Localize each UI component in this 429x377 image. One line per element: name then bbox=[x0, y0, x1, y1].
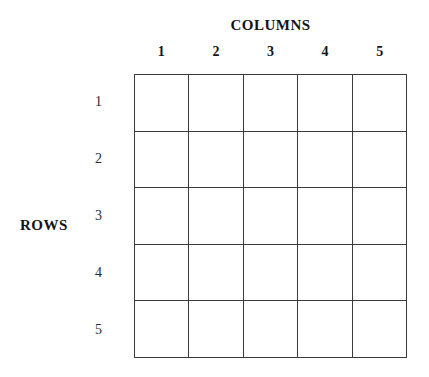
grid-cell[interactable] bbox=[135, 245, 189, 302]
grid-cell[interactable] bbox=[244, 188, 298, 245]
grid-cell[interactable] bbox=[353, 301, 407, 358]
grid-cell[interactable] bbox=[135, 301, 189, 358]
grid-cell[interactable] bbox=[189, 188, 243, 245]
grid-cell[interactable] bbox=[298, 132, 352, 189]
column-header-2: 2 bbox=[189, 42, 244, 62]
grid-table bbox=[134, 74, 407, 358]
grid-cell[interactable] bbox=[189, 132, 243, 189]
row-header-1: 1 bbox=[60, 74, 108, 131]
grid-cell[interactable] bbox=[135, 75, 189, 132]
column-header-strip: 1 2 3 4 5 bbox=[134, 42, 407, 62]
grid-cell[interactable] bbox=[353, 245, 407, 302]
columns-axis-title: COLUMNS bbox=[134, 17, 407, 34]
row-header-4: 4 bbox=[60, 244, 108, 301]
row-header-strip: 1 2 3 4 5 bbox=[60, 74, 108, 358]
grid-cell[interactable] bbox=[353, 188, 407, 245]
grid-cell[interactable] bbox=[353, 132, 407, 189]
grid-cell[interactable] bbox=[298, 301, 352, 358]
grid-cell[interactable] bbox=[189, 75, 243, 132]
column-header-3: 3 bbox=[243, 42, 298, 62]
rows-columns-figure: COLUMNS 1 2 3 4 5 ROWS 1 2 3 4 5 bbox=[0, 0, 429, 377]
grid-cell[interactable] bbox=[244, 75, 298, 132]
grid-cell[interactable] bbox=[298, 245, 352, 302]
grid-cell[interactable] bbox=[244, 301, 298, 358]
row-header-3: 3 bbox=[60, 188, 108, 245]
grid-cell[interactable] bbox=[244, 245, 298, 302]
grid-cell[interactable] bbox=[135, 132, 189, 189]
grid-cell[interactable] bbox=[135, 188, 189, 245]
row-header-5: 5 bbox=[60, 301, 108, 358]
row-header-2: 2 bbox=[60, 131, 108, 188]
grid-cell[interactable] bbox=[298, 75, 352, 132]
grid-cell[interactable] bbox=[244, 132, 298, 189]
column-header-4: 4 bbox=[298, 42, 353, 62]
grid-cell[interactable] bbox=[189, 245, 243, 302]
column-header-5: 5 bbox=[352, 42, 407, 62]
column-header-1: 1 bbox=[134, 42, 189, 62]
grid-cell[interactable] bbox=[298, 188, 352, 245]
grid-cell[interactable] bbox=[353, 75, 407, 132]
grid-cell[interactable] bbox=[189, 301, 243, 358]
